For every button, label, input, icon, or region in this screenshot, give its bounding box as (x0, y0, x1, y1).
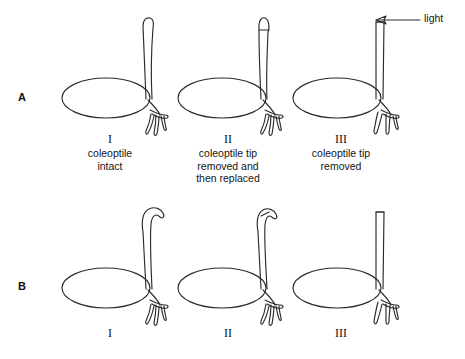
root-3-a-3 (393, 116, 398, 129)
root-lateral-a-3 (381, 110, 399, 118)
numeral-2-row-b: II (168, 326, 288, 340)
cut-line-b-2 (261, 212, 269, 216)
caption-column-1: I coleoptile intact (50, 132, 170, 172)
root-2-b-1 (154, 305, 159, 325)
numeral-1: I (50, 132, 170, 146)
caption-column-2-row-b: II (168, 326, 288, 341)
numeral-3: III (281, 132, 401, 146)
caption-text-3: coleoptile tip removed (281, 147, 401, 172)
row-label-b: B (18, 280, 26, 292)
root-1-b-3 (374, 302, 382, 324)
seedling-a-1 (62, 18, 168, 136)
coleoptile-a-3 (376, 22, 384, 99)
caption-text-1: coleoptile intact (50, 147, 170, 172)
root-collar-b-3 (379, 290, 391, 305)
light-label: light (424, 12, 443, 24)
seedling-a-2 (178, 18, 283, 136)
seedling-b-2 (178, 209, 283, 326)
seed-body-b-3 (293, 268, 381, 308)
root-3-b-2 (276, 306, 281, 320)
caption-column-2: II coleoptile tip removed and then repla… (168, 132, 288, 185)
root-lateral-b-1 (150, 300, 168, 308)
seedling-a-3 (293, 22, 399, 134)
root-3-b-1 (161, 306, 166, 320)
seedling-b-1 (62, 208, 168, 326)
root-3-a-1 (161, 116, 166, 130)
caption-column-3: III coleoptile tip removed (281, 132, 401, 172)
root-lateral-b-2 (265, 300, 283, 308)
coleoptile-b-2 (257, 209, 277, 289)
light-arrow-head (376, 16, 386, 24)
coleoptile-a-1 (143, 18, 153, 99)
root-lateral-b-3 (381, 300, 399, 308)
numeral-3-row-b: III (281, 326, 401, 340)
coleoptile-b-3 (376, 212, 384, 289)
root-1-b-2 (261, 304, 269, 324)
root-3-b-3 (393, 306, 398, 319)
seed-body-a-3 (293, 78, 381, 118)
root-collar-b-1 (148, 290, 160, 305)
caption-column-3-row-b: III (281, 326, 401, 341)
coleoptile-b-1 (142, 208, 164, 289)
root-lateral-a-1 (150, 110, 168, 118)
seed-body-a-2 (178, 78, 266, 118)
root-2-b-2 (269, 305, 274, 325)
caption-column-1-row-b: I (50, 326, 170, 341)
root-collar-b-2 (263, 290, 275, 305)
seed-body-a-1 (62, 78, 150, 118)
root-1-a-3 (374, 112, 382, 134)
row-label-a: A (18, 91, 26, 103)
coleoptile-a-2 (259, 18, 269, 99)
seed-body-b-2 (178, 268, 266, 308)
light-arrow-icon (376, 16, 420, 24)
root-1-b-1 (146, 304, 154, 324)
figure-root: A B light I coleoptile intact II coleopt… (0, 0, 465, 359)
seed-body-b-1 (62, 268, 150, 308)
root-collar-a-2 (263, 100, 275, 115)
numeral-2: II (168, 132, 288, 146)
caption-text-2: coleoptile tip removed and then replaced (168, 147, 288, 185)
root-collar-a-3 (379, 100, 391, 115)
root-3-a-2 (276, 116, 281, 130)
root-collar-a-1 (148, 100, 160, 115)
seedling-b-3 (293, 212, 399, 324)
numeral-1-row-b: I (50, 326, 170, 340)
root-2-b-3 (386, 304, 390, 324)
root-lateral-a-2 (265, 110, 283, 118)
